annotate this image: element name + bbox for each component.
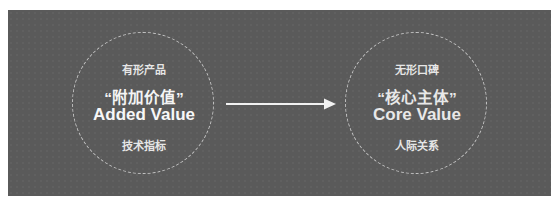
added-value-circle: 有形产品 “附加价值” Added Value 技术指标 bbox=[72, 32, 214, 174]
left-bottom-label: 技术指标 bbox=[73, 137, 215, 153]
left-cn-title: “附加价值” bbox=[73, 85, 215, 107]
right-top-label: 无形口碑 bbox=[346, 61, 488, 77]
right-en-title: Core Value bbox=[346, 105, 488, 125]
right-bottom-label: 人际关系 bbox=[346, 137, 488, 153]
core-value-circle: 无形口碑 “核心主体” Core Value 人际关系 bbox=[345, 32, 487, 174]
left-top-label: 有形产品 bbox=[73, 61, 215, 77]
left-en-title: Added Value bbox=[73, 105, 215, 125]
diagram-panel: 有形产品 “附加价值” Added Value 技术指标 无形口碑 “核心主体”… bbox=[8, 10, 551, 196]
arrow-right-icon bbox=[226, 98, 336, 110]
right-cn-title: “核心主体” bbox=[346, 85, 488, 107]
